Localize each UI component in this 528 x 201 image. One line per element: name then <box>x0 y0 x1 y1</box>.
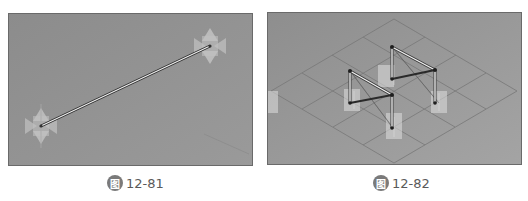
figure-badge-icon: 图 <box>107 175 123 191</box>
figure-caption-left: 图 12-81 <box>107 174 164 192</box>
point-gizmo-icon <box>268 91 278 113</box>
figure-caption-right: 图 12-82 <box>373 174 430 192</box>
viewport-left[interactable] <box>8 13 253 166</box>
figure-badge-icon: 图 <box>373 175 389 191</box>
figure-number: 12-81 <box>126 176 164 191</box>
figure-number: 12-82 <box>392 176 430 191</box>
viewport-right[interactable] <box>267 12 522 165</box>
viewport-left-canvas <box>9 14 253 166</box>
point-gizmo-icon <box>344 89 360 111</box>
viewport-right-canvas <box>268 13 522 165</box>
